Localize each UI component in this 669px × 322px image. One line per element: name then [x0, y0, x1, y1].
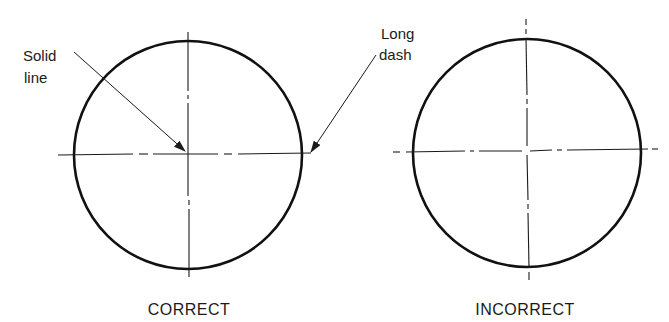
solid-line-label-2: line [24, 69, 47, 86]
long-dash-leader-arrow [311, 55, 376, 152]
solid-line-callout: Solid line [23, 47, 185, 151]
incorrect-horizontal-centerline [393, 149, 658, 152]
correct-horizontal-centerline [58, 153, 311, 155]
correct-caption: CORRECT [148, 301, 231, 318]
incorrect-panel: INCORRECT [393, 19, 658, 318]
incorrect-vertical-centerline [526, 19, 529, 280]
centerline-convention-diagram: Solid line CORRECT Long dash [0, 0, 669, 322]
long-dash-label-1: Long [381, 25, 414, 42]
long-dash-callout: Long dash [311, 25, 414, 152]
long-dash-label-2: dash [379, 46, 412, 63]
solid-line-label-1: Solid [23, 47, 56, 64]
correct-panel: Solid line CORRECT [23, 32, 311, 318]
incorrect-caption: INCORRECT [475, 301, 575, 318]
solid-line-leader-arrow [74, 52, 185, 151]
